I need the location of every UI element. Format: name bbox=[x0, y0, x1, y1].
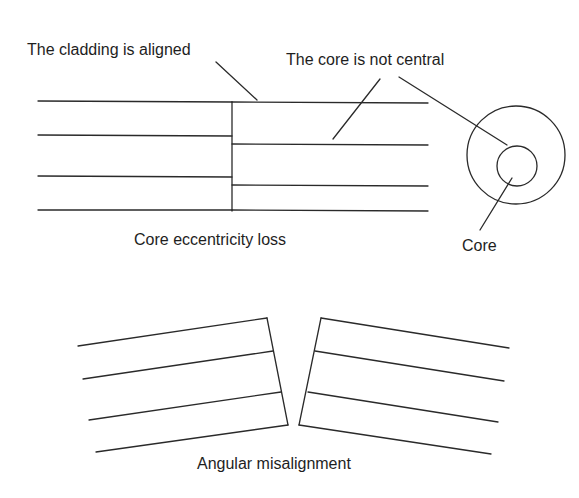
core-leader-line-section bbox=[399, 77, 507, 145]
cladding-circle bbox=[467, 106, 565, 204]
core-eccentricity-caption: Core eccentricity loss bbox=[134, 231, 286, 248]
core-label-leader-line bbox=[480, 178, 512, 230]
angular-misalignment-figure: Angular misalignment bbox=[78, 318, 509, 472]
left-fiber bbox=[38, 101, 232, 210]
core-circle bbox=[497, 146, 537, 186]
core-not-central-label: The core is not central bbox=[286, 51, 444, 68]
core-leader-line-fiber bbox=[333, 79, 380, 139]
cladding-aligned-label: The cladding is aligned bbox=[27, 41, 191, 58]
right-fiber bbox=[232, 102, 428, 211]
core-eccentricity-figure: The cladding is aligned The core is not … bbox=[27, 41, 565, 254]
angular-misalignment-caption: Angular misalignment bbox=[197, 455, 351, 472]
core-label: Core bbox=[462, 237, 497, 254]
fiber-splice-loss-diagram: The cladding is aligned The core is not … bbox=[0, 0, 579, 498]
cladding-leader-line bbox=[216, 62, 257, 100]
fiber-cross-section bbox=[467, 106, 565, 204]
right-angled-fiber bbox=[299, 318, 509, 454]
left-angled-fiber bbox=[78, 318, 288, 452]
